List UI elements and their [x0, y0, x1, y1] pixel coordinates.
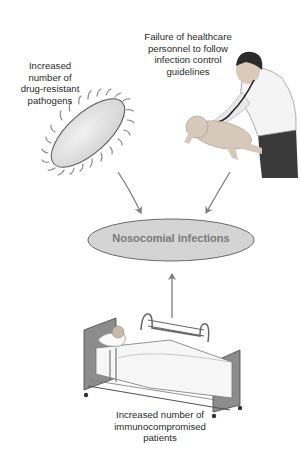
label-line: infection control — [138, 54, 238, 66]
label-line: personnel to follow — [138, 43, 238, 55]
label-line: guidelines — [138, 66, 238, 78]
hospital-bed-patient — [84, 314, 242, 418]
arrow-personnel — [206, 172, 230, 213]
label-line: immunocompromised — [85, 421, 235, 433]
label-line: patients — [85, 432, 235, 444]
label-line: Failure of healthcare — [138, 31, 238, 43]
label-line: Increased number of — [85, 409, 235, 421]
cause-label-personnel: Failure of healthcare personnel to follo… — [138, 31, 238, 77]
cause-label-patients: Increased number of immunocompromised pa… — [85, 409, 235, 444]
label-line: Increased — [12, 60, 88, 72]
label-line: pathogens — [12, 95, 88, 107]
label-line: number of — [12, 72, 88, 84]
center-node-label: Nosocomial infections — [88, 232, 254, 244]
cause-label-pathogens: Increased number of drug-resistant patho… — [12, 60, 88, 106]
arrow-pathogens — [118, 172, 141, 213]
label-line: drug-resistant — [12, 83, 88, 95]
